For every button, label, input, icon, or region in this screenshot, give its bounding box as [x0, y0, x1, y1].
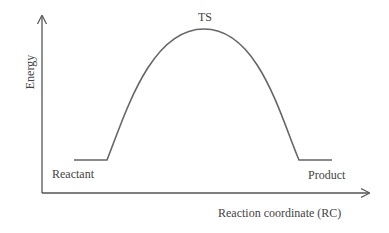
transition-state-label: TS: [198, 10, 212, 24]
product-label: Product: [308, 168, 346, 182]
energy-diagram: Energy TS Reactant Product Reaction coor…: [0, 0, 389, 233]
energy-curve: [74, 29, 332, 160]
y-axis-label: Energy: [23, 55, 37, 89]
x-axis-label: Reaction coordinate (RC): [218, 206, 341, 220]
reactant-label: Reactant: [52, 167, 95, 181]
